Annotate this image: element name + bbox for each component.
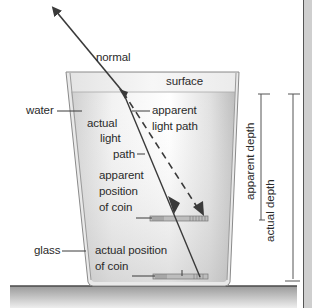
label-apparent-light-path-1: apparent (152, 103, 197, 118)
label-actual-light-path-1: actual (87, 116, 117, 131)
label-apparent-position-2: position (99, 184, 138, 199)
right-edge-strip (303, 0, 312, 308)
label-actual-depth: actual depth (264, 179, 276, 242)
label-water: water (26, 103, 54, 118)
refraction-diagram: normal surface water actual light path a… (0, 0, 312, 308)
label-actual-light-path-2: light (100, 131, 121, 146)
label-apparent-position-1: apparent (99, 168, 144, 183)
label-normal: normal (96, 50, 131, 65)
label-glass: glass (34, 243, 60, 258)
label-apparent-depth: apparent depth (244, 123, 256, 200)
label-actual-position-1: actual position (95, 243, 167, 258)
label-actual-position-2: of coin (95, 259, 128, 274)
label-surface: surface (166, 74, 203, 89)
label-apparent-position-3: of coin (99, 200, 132, 215)
label-apparent-light-path-2: light path (152, 119, 198, 134)
apparent-coin (150, 216, 208, 221)
label-actual-light-path-3: path (113, 147, 135, 162)
table (10, 286, 297, 308)
